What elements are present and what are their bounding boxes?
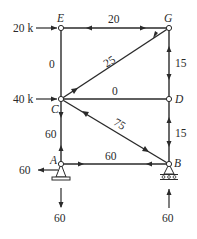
force-CB: 75 [112,116,128,132]
arrow-DB-lower-icon [167,141,172,147]
force-CG: 25 [101,53,117,69]
reaction-A-horizontal-label: 60 [19,164,31,176]
force-CD: 0 [112,85,118,97]
label-B: B [174,157,181,169]
arrow-CA-upper-icon [59,112,64,118]
truss-diagram: E G C D A B 20 0 25 0 15 15 60 75 60 20 … [0,0,197,239]
reaction-B-vertical-label: 60 [162,212,174,224]
force-EG: 20 [108,13,120,25]
reaction-A-horizontal-arrow-icon [38,168,44,173]
joint-G [166,25,171,30]
load-E-arrow-icon [51,26,57,31]
force-AB: 60 [105,150,117,162]
arrow-CA-lower-icon [59,145,64,151]
load-C-arrow-icon [51,97,57,102]
force-GD: 15 [175,57,187,69]
arrow-CB-upper-icon [82,111,89,117]
reaction-B-vertical-arrow-icon [167,189,172,195]
arrow-AB-left-icon [78,162,84,167]
joint-D [166,96,171,101]
label-G: G [164,12,173,24]
arrow-GD-upper-icon [167,46,172,52]
arrow-DB-upper-icon [167,117,172,123]
joint-C [58,96,63,101]
arrow-AB-right-icon [146,162,152,167]
arrow-EG-right-icon [140,26,146,31]
reaction-A-vertical-label: 60 [54,212,66,224]
load-C-label: 40 k [13,93,33,105]
label-C: C [51,103,59,115]
force-DB: 15 [175,127,187,139]
joint-B [166,161,171,166]
force-EC: 0 [49,58,55,70]
arrow-GD-lower-icon [167,74,172,80]
label-A: A [49,154,58,166]
label-E: E [56,12,64,24]
joint-A [58,161,63,166]
arrow-EG-left-icon [86,26,92,31]
reaction-A-vertical-arrow-icon [59,202,64,208]
joint-E [58,25,63,30]
label-D: D [174,93,184,105]
load-E-label: 20 k [13,22,33,34]
force-CA: 60 [45,128,57,140]
